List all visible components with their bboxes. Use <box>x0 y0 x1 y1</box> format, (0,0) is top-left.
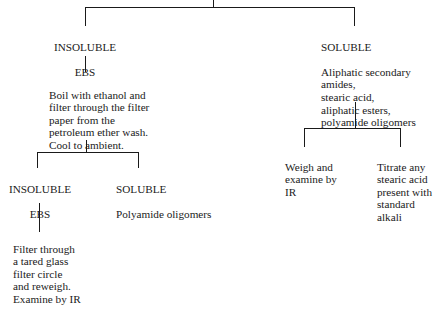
soluble-left-branch-line <box>304 128 305 147</box>
node-text: Polyamide oligomers <box>116 208 246 221</box>
titrate-step-node: Titrate any stearic acid present with st… <box>377 148 443 236</box>
node-heading: INSOLUBLE <box>5 183 75 196</box>
soluble-bottom-node: SOLUBLE Polyamide oligomers <box>116 170 246 233</box>
root-branch-line <box>85 7 355 8</box>
node-text: Weigh and examine by IR <box>285 161 355 199</box>
soluble-top-node: SOLUBLE Aliphatic secondary amides, stea… <box>321 28 443 141</box>
node-text: Aliphatic secondary amides, stearic acid… <box>321 66 443 129</box>
node-text: EBS <box>5 208 75 221</box>
boil-left-branch-line <box>37 152 38 168</box>
boil-step-node: Boil with ethanol and filter through the… <box>49 76 199 164</box>
node-heading: INSOLUBLE <box>50 41 120 54</box>
right-branch-line <box>354 7 355 26</box>
insoluble-ebs-bottom-node: INSOLUBLE EBS <box>5 170 75 233</box>
node-heading: SOLUBLE <box>321 41 443 54</box>
left-branch-line <box>85 7 86 26</box>
node-text: Filter through a tared glass filter circ… <box>13 243 103 306</box>
filter-step-node: Filter through a tared glass filter circ… <box>13 230 103 309</box>
weigh-step-node: Weigh and examine by IR <box>285 148 355 211</box>
node-heading: SOLUBLE <box>116 183 246 196</box>
node-text: Titrate any stearic acid present with st… <box>377 161 443 224</box>
node-text: Boil with ethanol and filter through the… <box>49 89 199 152</box>
